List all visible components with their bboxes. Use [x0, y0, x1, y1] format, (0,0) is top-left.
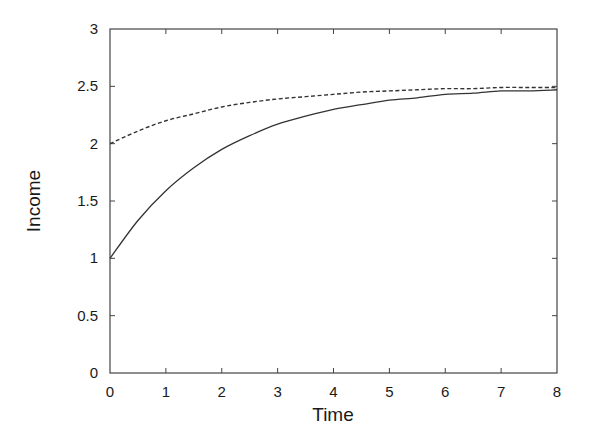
y-tick-label: 3 [90, 20, 98, 37]
x-tick-label: 2 [218, 383, 226, 400]
x-tick-label: 8 [553, 383, 561, 400]
y-tick-label: 0.5 [77, 307, 98, 324]
plot-border [110, 29, 557, 373]
y-tick-label: 0 [90, 364, 98, 381]
line-chart: 012345678 00.511.522.53 Time Income [0, 0, 590, 444]
series-dashed-line [110, 87, 557, 143]
x-tick-label: 3 [273, 383, 281, 400]
x-tick-label: 1 [162, 383, 170, 400]
series-solid-line [110, 90, 557, 259]
x-tick-label: 5 [385, 383, 393, 400]
plot-frame [110, 29, 557, 373]
x-axis-label: Time [312, 404, 354, 425]
x-axis-ticks: 012345678 [106, 29, 561, 400]
x-tick-label: 7 [497, 383, 505, 400]
y-tick-label: 1 [90, 249, 98, 266]
x-tick-label: 6 [441, 383, 449, 400]
y-tick-label: 2.5 [77, 77, 98, 94]
x-tick-label: 4 [329, 383, 337, 400]
x-tick-label: 0 [106, 383, 114, 400]
y-tick-label: 2 [90, 135, 98, 152]
y-axis-label: Income [23, 170, 44, 232]
series-layer [110, 87, 557, 258]
y-tick-label: 1.5 [77, 192, 98, 209]
y-axis-ticks: 00.511.522.53 [77, 20, 557, 381]
